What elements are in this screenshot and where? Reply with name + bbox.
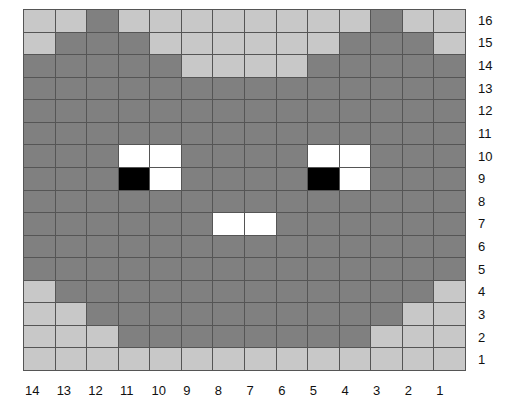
- grid-cell: [371, 213, 402, 235]
- grid-cell: [24, 123, 55, 145]
- row-label: 3: [470, 303, 500, 326]
- grid-cell: [87, 168, 118, 190]
- grid-cell: [213, 258, 244, 280]
- grid-cell: [340, 303, 371, 325]
- grid-cell: [371, 55, 402, 77]
- column-label: 14: [23, 380, 55, 400]
- grid-cell: [308, 168, 339, 190]
- grid-cell: [87, 258, 118, 280]
- grid-cell: [24, 100, 55, 122]
- grid-cell: [308, 100, 339, 122]
- grid-cell: [150, 191, 181, 213]
- grid-cell: [245, 10, 276, 32]
- grid-cell: [119, 213, 150, 235]
- grid-cell: [150, 55, 181, 77]
- grid-cell: [213, 326, 244, 348]
- grid-cell: [56, 213, 87, 235]
- grid-cell: [87, 100, 118, 122]
- grid-cell: [371, 145, 402, 167]
- grid-cell: [56, 303, 87, 325]
- grid-cell: [340, 10, 371, 32]
- grid-cell: [371, 236, 402, 258]
- grid-cell: [150, 326, 181, 348]
- grid-cell: [308, 303, 339, 325]
- grid-cell: [371, 33, 402, 55]
- grid-cell: [24, 258, 55, 280]
- grid-cell: [308, 78, 339, 100]
- grid-cell: [277, 78, 308, 100]
- row-label: 11: [470, 122, 500, 145]
- grid-cell: [87, 145, 118, 167]
- grid-cell: [213, 236, 244, 258]
- grid-cell: [403, 191, 434, 213]
- grid-cell: [434, 191, 465, 213]
- grid-cell: [434, 123, 465, 145]
- grid-cell: [245, 258, 276, 280]
- grid-cell: [403, 326, 434, 348]
- grid-cell: [87, 123, 118, 145]
- grid-cell: [340, 145, 371, 167]
- grid-cell: [245, 281, 276, 303]
- grid-cell: [24, 78, 55, 100]
- grid-cell: [245, 78, 276, 100]
- grid-cell: [371, 348, 402, 370]
- grid-cell: [24, 281, 55, 303]
- grid-cell: [213, 145, 244, 167]
- column-label: 2: [403, 380, 435, 400]
- grid-cell: [340, 326, 371, 348]
- grid-cell: [371, 191, 402, 213]
- grid-cell: [277, 10, 308, 32]
- grid-cell: [119, 303, 150, 325]
- grid-cell: [56, 10, 87, 32]
- grid-cell: [182, 123, 213, 145]
- grid-cell: [403, 281, 434, 303]
- grid-cell: [119, 145, 150, 167]
- grid-cell: [87, 236, 118, 258]
- grid-cell: [150, 236, 181, 258]
- column-label: 12: [86, 380, 118, 400]
- grid-cell: [119, 10, 150, 32]
- grid-cell: [24, 348, 55, 370]
- grid-cell: [245, 213, 276, 235]
- row-label: 12: [470, 100, 500, 123]
- grid-cell: [371, 326, 402, 348]
- grid-cell: [403, 123, 434, 145]
- grid-cell: [87, 10, 118, 32]
- grid-cell: [56, 100, 87, 122]
- grid-cell: [434, 10, 465, 32]
- grid-cell: [308, 348, 339, 370]
- grid-cell: [245, 191, 276, 213]
- grid-cell: [56, 168, 87, 190]
- grid-cell: [182, 191, 213, 213]
- grid-cell: [371, 78, 402, 100]
- grid-cell: [87, 326, 118, 348]
- grid-cell: [182, 100, 213, 122]
- grid-cell: [119, 100, 150, 122]
- grid-cell: [308, 33, 339, 55]
- grid-cell: [371, 281, 402, 303]
- grid-cell: [277, 236, 308, 258]
- grid-cell: [56, 258, 87, 280]
- grid-cell: [434, 78, 465, 100]
- grid-cell: [150, 348, 181, 370]
- column-label: 4: [339, 380, 371, 400]
- grid-cell: [213, 55, 244, 77]
- column-label: 1: [434, 380, 466, 400]
- grid-cell: [245, 145, 276, 167]
- grid-cell: [371, 168, 402, 190]
- grid-cell: [150, 123, 181, 145]
- grid-cell: [150, 78, 181, 100]
- grid-cell: [434, 326, 465, 348]
- row-label: 1: [470, 348, 500, 371]
- grid-cell: [182, 10, 213, 32]
- column-label: 6: [276, 380, 308, 400]
- grid-cell: [245, 55, 276, 77]
- row-label: 8: [470, 190, 500, 213]
- grid-cell: [277, 303, 308, 325]
- grid-cell: [340, 33, 371, 55]
- grid-cell: [87, 191, 118, 213]
- grid-cell: [434, 55, 465, 77]
- column-label: 9: [181, 380, 213, 400]
- grid-cell: [403, 55, 434, 77]
- grid-cell: [119, 123, 150, 145]
